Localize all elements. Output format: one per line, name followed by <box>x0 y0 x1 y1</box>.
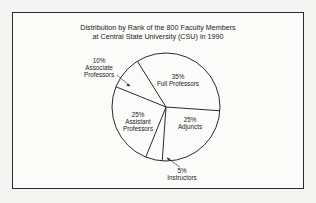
label-assistant-pct: 25% <box>132 111 145 118</box>
pie-slices <box>112 53 220 161</box>
label-instructors-pct: 5% <box>177 167 187 174</box>
label-adjuncts-name: Adjuncts <box>178 123 202 131</box>
label-associate-name-1: Associate <box>85 64 113 71</box>
label-assistant-name-1: Assistant <box>125 118 151 125</box>
pie-chart: 35% Full Professors 25% Adjuncts 5% Inst… <box>0 0 316 203</box>
label-adjuncts-pct: 25% <box>184 116 197 123</box>
label-associate-name-2: Professors <box>84 71 114 78</box>
label-assistant-name-2: Professors <box>123 125 153 132</box>
label-full-professors-pct: 35% <box>172 73 185 80</box>
label-full-professors-name: Full Professors <box>157 80 199 87</box>
label-instructors-name: Instructors <box>167 174 196 181</box>
label-associate-pct: 10% <box>93 57 106 64</box>
